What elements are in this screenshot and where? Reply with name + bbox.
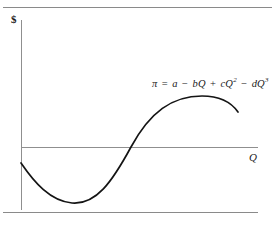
equation-equals: = bbox=[160, 78, 169, 89]
equation-minus-2: − bbox=[240, 78, 249, 89]
plot-area bbox=[0, 0, 275, 225]
equation-plus: + bbox=[209, 78, 218, 89]
bottom-horizontal-rule bbox=[3, 212, 258, 213]
equation-term-dq: dQ bbox=[252, 78, 265, 89]
equation-minus-1: − bbox=[181, 78, 190, 89]
equation-term-a: a bbox=[172, 78, 177, 89]
equation-exponent-2: 2 bbox=[233, 76, 237, 84]
equation-annotation: π = a − bQ + cQ2 − dQ3 bbox=[152, 77, 269, 89]
y-axis-label: $ bbox=[11, 14, 17, 25]
equation-exponent-3: 3 bbox=[265, 76, 269, 84]
equation-pi: π bbox=[152, 78, 157, 89]
equation-term-cq: cQ bbox=[221, 78, 234, 89]
x-axis-label: Q bbox=[249, 152, 257, 163]
figure-container: $ Q π = a − bQ + cQ2 − dQ3 bbox=[0, 0, 275, 225]
equation-term-bq: bQ bbox=[192, 78, 205, 89]
profit-curve-path bbox=[21, 96, 238, 203]
